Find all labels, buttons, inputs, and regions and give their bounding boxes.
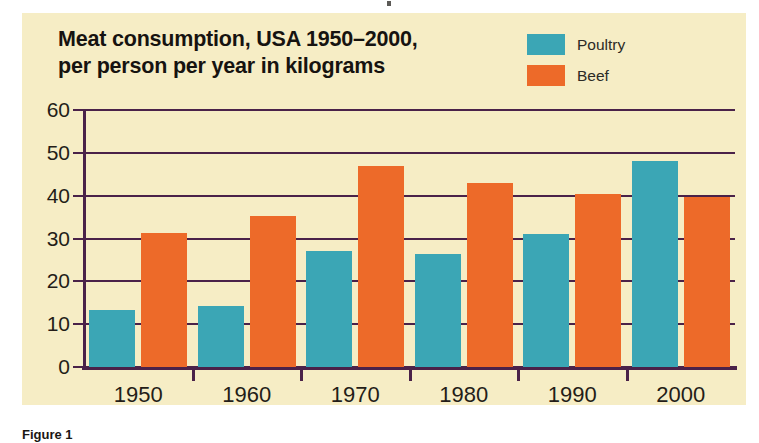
- y-axis-label-50: 50: [47, 141, 70, 165]
- x-tick-2000: [626, 368, 629, 381]
- gridline-60: [84, 109, 735, 111]
- bar-poultry-1950: [89, 310, 135, 367]
- bar-beef-1980: [467, 183, 513, 367]
- y-tick-10: [73, 323, 84, 325]
- chart-title-line-2: per person per year in kilograms: [58, 53, 498, 80]
- legend-swatch-poultry: [527, 34, 565, 55]
- y-tick-60: [73, 109, 84, 111]
- chart-legend: Poultry Beef: [527, 31, 707, 93]
- x-tick-1980: [409, 368, 412, 381]
- chart-title-line-1: Meat consumption, USA 1950–2000,: [58, 26, 498, 53]
- y-tick-40: [73, 195, 84, 197]
- legend-label-beef: Beef: [577, 67, 609, 85]
- chart-title: Meat consumption, USA 1950–2000, per per…: [58, 26, 498, 80]
- y-axis-label-0: 0: [58, 355, 70, 379]
- x-axis-label-1970: 1970: [331, 382, 380, 408]
- bar-beef-1950: [141, 233, 187, 367]
- y-tick-20: [73, 280, 84, 282]
- bar-beef-1990: [575, 194, 621, 367]
- legend-item-poultry: Poultry: [527, 31, 707, 58]
- y-axis-label-20: 20: [47, 269, 70, 293]
- bar-poultry-1960: [198, 306, 244, 367]
- x-tick-1990: [517, 368, 520, 381]
- y-tick-30: [73, 238, 84, 240]
- scan-artifact-speck: [387, 1, 391, 6]
- bar-poultry-1980: [415, 254, 461, 367]
- y-tick-50: [73, 152, 84, 154]
- legend-swatch-beef: [527, 65, 565, 86]
- bar-beef-2000: [684, 197, 730, 367]
- y-axis-label-60: 60: [47, 98, 70, 122]
- x-axis-label-1990: 1990: [548, 382, 597, 408]
- gridline-50: [84, 152, 735, 154]
- bar-beef-1960: [250, 216, 296, 367]
- x-tick-1960: [192, 368, 195, 381]
- y-axis-label-30: 30: [47, 227, 70, 251]
- x-axis-label-1950: 1950: [114, 382, 163, 408]
- figure-caption: Figure 1: [22, 427, 73, 443]
- bar-poultry-2000: [632, 161, 678, 367]
- x-axis-label-1980: 1980: [439, 382, 488, 408]
- bar-beef-1970: [358, 166, 404, 367]
- y-axis-label-40: 40: [47, 184, 70, 208]
- bar-poultry-1970: [306, 251, 352, 367]
- plot-area: 0102030405060 195019601970198019902000: [84, 110, 735, 367]
- legend-item-beef: Beef: [527, 62, 707, 89]
- y-axis-label-10: 10: [47, 312, 70, 336]
- figure-root: Meat consumption, USA 1950–2000, per per…: [0, 0, 759, 443]
- x-tick-1970: [300, 368, 303, 381]
- x-axis-label-2000: 2000: [656, 382, 705, 408]
- legend-label-poultry: Poultry: [577, 36, 625, 54]
- x-axis-label-1960: 1960: [222, 382, 271, 408]
- bar-poultry-1990: [523, 234, 569, 367]
